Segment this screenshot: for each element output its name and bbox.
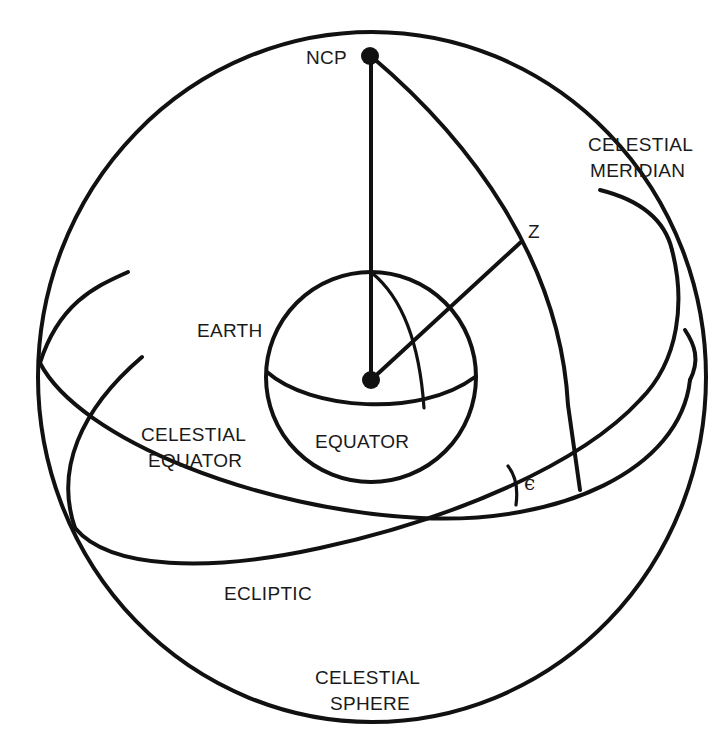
- celestial-meridian-label-line1: CELESTIAL: [588, 134, 693, 155]
- celestial-equator-back-right: [685, 330, 695, 380]
- celestial-sphere-label-line1: CELESTIAL: [315, 667, 420, 688]
- celestial-sphere-diagram: NCP CELESTIAL MERIDIAN Z EARTH EQUATOR C…: [0, 0, 722, 747]
- celestial-equator-label-line1: CELESTIAL: [141, 424, 246, 445]
- ecliptic-label: ECLIPTIC: [224, 583, 312, 604]
- ncp-label: NCP: [306, 47, 347, 68]
- zenith-label: Z: [528, 221, 540, 242]
- celestial-equator-label-line2: EQUATOR: [148, 450, 242, 471]
- ecliptic-top-right: [600, 190, 672, 250]
- celestial-sphere-label-line2: SPHERE: [330, 693, 410, 714]
- celestial-equator-back-curve: [40, 272, 128, 363]
- ncp-point: [361, 47, 379, 65]
- celestial-meridian-curve: [372, 57, 580, 490]
- earth-equator-label: EQUATOR: [315, 431, 409, 452]
- earth-center-point: [362, 371, 380, 389]
- earth-label: EARTH: [197, 320, 263, 341]
- zenith-line: [371, 242, 521, 380]
- obliquity-epsilon-label: ϵ: [524, 471, 535, 495]
- celestial-meridian-label-line2: MERIDIAN: [590, 160, 685, 181]
